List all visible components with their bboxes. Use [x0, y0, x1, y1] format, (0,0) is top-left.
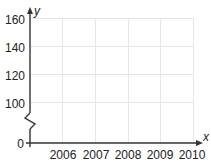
y-tick: 100: [5, 97, 25, 111]
grid: [30, 18, 194, 143]
y-axis-arrow-icon: [27, 7, 33, 14]
x-axis-name: x: [202, 130, 210, 144]
x-tick: 2009: [147, 148, 174, 162]
y-tick: 0: [17, 137, 24, 151]
x-tick: 2010: [179, 148, 206, 162]
y-tick: 160: [5, 13, 25, 27]
x-axis-label: Year: [99, 164, 126, 166]
x-tick: 2006: [50, 148, 77, 162]
y-axis-name: y: [33, 4, 41, 18]
chart: y x 160 140 120 100 0 2006 2007 2008 200…: [0, 0, 211, 166]
x-axis-arrow-icon: [196, 140, 203, 146]
y-tick: 120: [5, 69, 25, 83]
x-tick: 2007: [83, 148, 110, 162]
y-tick: 140: [5, 41, 25, 55]
y-axis: [25, 12, 35, 147]
x-tick: 2008: [115, 148, 142, 162]
